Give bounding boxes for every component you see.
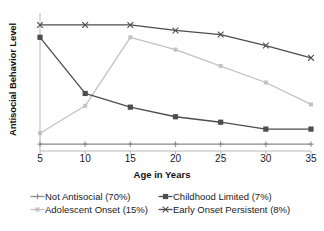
chart-legend: Not Antisocial (70%)Childhood Limited (7…	[30, 190, 312, 216]
data-point-marker	[128, 105, 133, 110]
x-tick-label: 35	[305, 153, 316, 164]
legend-marker-icon	[30, 204, 45, 215]
legend-marker-icon	[158, 204, 173, 215]
legend-marker-icon	[30, 191, 45, 202]
legend-marker-icon	[158, 191, 173, 202]
x-tick-label: 5	[37, 153, 43, 164]
data-point-marker	[173, 114, 178, 119]
plot-svg	[40, 14, 311, 151]
legend-item[interactable]: Not Antisocial (70%)	[30, 190, 158, 203]
data-point-marker	[309, 102, 313, 106]
legend-label: Adolescent Onset (15%)	[45, 204, 148, 215]
data-point-marker	[83, 104, 87, 108]
data-point-marker	[308, 126, 313, 131]
x-axis-title: Age in Years	[0, 169, 324, 180]
data-point-marker	[163, 194, 168, 199]
legend-label: Not Antisocial (70%)	[45, 191, 131, 202]
data-point-marker	[38, 131, 42, 135]
data-point-marker	[36, 208, 40, 212]
data-series-layer	[37, 22, 314, 147]
x-tick-label: 30	[260, 153, 271, 164]
data-point-marker	[174, 48, 178, 52]
x-tick-label: 20	[170, 153, 181, 164]
y-axis-title: Antisocial Behavior Level	[8, 22, 19, 135]
x-tick-label: 10	[80, 153, 91, 164]
data-point-marker	[264, 81, 268, 85]
data-point-marker	[128, 35, 132, 39]
chart-figure: Antisocial Behavior Level 5101520253035 …	[0, 0, 324, 231]
x-tick-label: 25	[215, 153, 226, 164]
data-point-marker	[218, 120, 223, 125]
plot-area	[40, 14, 311, 151]
series-4	[37, 22, 314, 61]
x-axis-tick-labels: 5101520253035	[40, 153, 311, 167]
legend-label: Early Onset Persistent (8%)	[173, 204, 290, 215]
legend-item[interactable]: Adolescent Onset (15%)	[30, 203, 158, 216]
series-1	[37, 142, 313, 147]
x-tick-label: 15	[125, 153, 136, 164]
legend-label: Childhood Limited (7%)	[173, 191, 272, 202]
y-axis-title-container: Antisocial Behavior Level	[0, 0, 26, 158]
data-point-marker	[83, 91, 88, 96]
legend-item[interactable]: Childhood Limited (7%)	[158, 190, 312, 203]
data-point-marker	[219, 64, 223, 68]
axis-spines	[40, 13, 311, 151]
data-point-marker	[263, 126, 268, 131]
data-point-marker	[37, 35, 42, 40]
legend-item[interactable]: Early Onset Persistent (8%)	[158, 203, 312, 216]
